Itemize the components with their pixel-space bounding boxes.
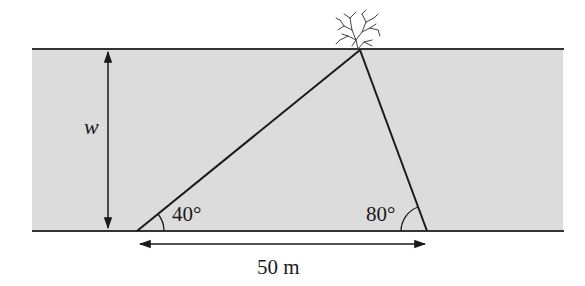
angle-label-left: 40° (172, 202, 201, 227)
diagram-canvas (0, 0, 585, 286)
angle-label-right: 80° (366, 202, 395, 227)
tree-icon (336, 10, 380, 49)
width-label: w (84, 114, 99, 140)
river-band (32, 49, 563, 231)
diagram: w 40° 80° 50 m (0, 0, 585, 286)
distance-label: 50 m (257, 255, 300, 280)
